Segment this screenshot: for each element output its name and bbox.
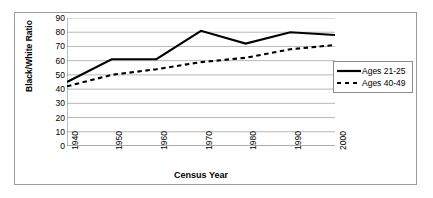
x-axis-title: Census Year (67, 170, 335, 180)
y-axis-tick-label: 50 (56, 71, 65, 80)
y-axis-tick-label: 60 (56, 56, 65, 65)
x-axis-tick-label: 1980 (249, 131, 258, 150)
legend-item-series-1[interactable]: Ages 21-25 (336, 65, 409, 77)
plot-svg (67, 18, 335, 146)
y-axis-tick-label: 70 (56, 42, 65, 51)
legend-swatch-dashed-line-icon (336, 78, 362, 88)
x-axis-tick-label: 1950 (115, 131, 124, 150)
y-axis-title: Black/White Ratio (24, 6, 34, 106)
y-axis-tick-label: 90 (56, 14, 65, 23)
series-line-2 (67, 45, 335, 86)
chart-frame: Black/White Ratio 0102030405060708090 19… (14, 12, 417, 185)
x-axis-tick-label: 1990 (294, 131, 303, 150)
y-axis-tick-label: 20 (56, 113, 65, 122)
legend-label-series-2: Ages 40-49 (362, 79, 405, 88)
y-axis-tick-label: 30 (56, 99, 65, 108)
y-axis-tick-label: 40 (56, 85, 65, 94)
y-axis-tick-labels: 0102030405060708090 (35, 13, 65, 151)
legend-item-series-2[interactable]: Ages 40-49 (336, 77, 409, 89)
x-axis-tick-label: 1940 (71, 131, 80, 150)
series-line-1 (67, 31, 335, 82)
y-axis-tick-label: 0 (60, 142, 65, 151)
chart-legend: Ages 21-25 Ages 40-49 (333, 61, 413, 93)
y-axis-tick-label: 80 (56, 28, 65, 37)
plot-area (67, 18, 335, 146)
x-axis-tick-label: 2000 (339, 131, 348, 150)
x-axis-tick-label: 1970 (205, 131, 214, 150)
legend-swatch-solid-line-icon (336, 66, 362, 76)
x-axis-tick-label: 1960 (160, 131, 169, 150)
legend-label-series-1: Ages 21-25 (362, 67, 405, 76)
y-axis-tick-label: 10 (56, 128, 65, 137)
